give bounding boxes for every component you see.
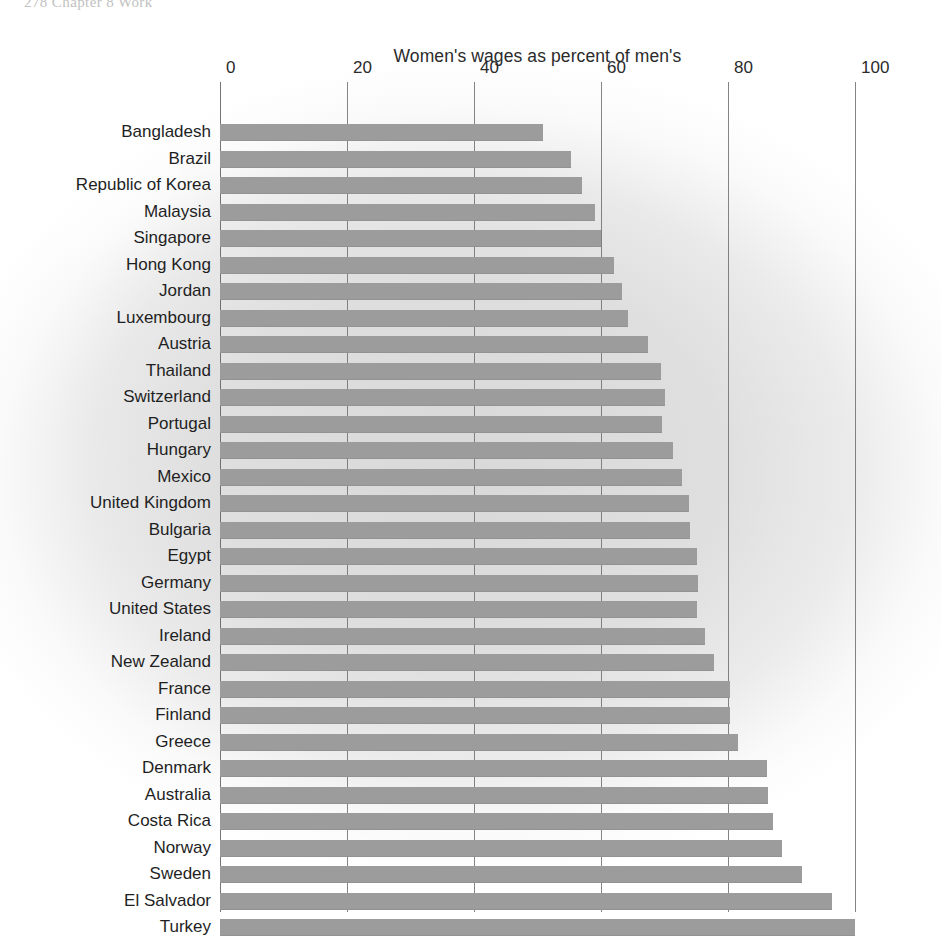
bar [220,522,690,539]
bar-row: Denmark [220,760,855,777]
bar-row: Costa Rica [220,813,855,830]
bar [220,628,705,645]
bar-row: New Zealand [220,654,855,671]
category-label: Hungary [147,439,211,461]
bar [220,760,767,777]
plot-area: 020406080100 BangladeshBrazilRepublic of… [220,118,855,912]
category-label: Thailand [146,360,211,382]
bar-row: Portugal [220,416,855,433]
bar [220,177,582,194]
category-label: Brazil [168,148,211,170]
category-label: Republic of Korea [76,174,211,196]
bar-row: France [220,681,855,698]
bar-row: Greece [220,734,855,751]
category-label: Finland [155,704,211,726]
category-label: Jordan [159,280,211,302]
category-label: Greece [155,731,211,753]
bar-row: Jordan [220,283,855,300]
bar-row: United States [220,601,855,618]
category-label: Bulgaria [149,519,211,541]
bar [220,840,782,857]
bar [220,469,682,486]
bar-row: Austria [220,336,855,353]
bar [220,442,673,459]
category-label: Portugal [148,413,211,435]
bar [220,151,571,168]
bar [220,707,730,724]
bar-row: Sweden [220,866,855,883]
category-label: Mexico [157,466,211,488]
bar-row: Germany [220,575,855,592]
category-label: Singapore [133,227,211,249]
category-label: Malaysia [144,201,211,223]
bar [220,283,622,300]
category-label: Turkey [160,916,211,938]
category-label: United Kingdom [90,492,211,514]
bar-row: Malaysia [220,204,855,221]
bar [220,416,662,433]
category-label: Ireland [159,625,211,647]
bar-row: Hong Kong [220,257,855,274]
bar [220,495,689,512]
bar-row: Hungary [220,442,855,459]
category-label: France [158,678,211,700]
bar [220,787,768,804]
category-label: New Zealand [111,651,211,673]
bar-row: Switzerland [220,389,855,406]
bar [220,893,832,910]
bar [220,654,714,671]
x-tick-label-60: 60 [607,58,626,78]
bar [220,310,628,327]
bar [220,681,730,698]
bar [220,336,648,353]
bar-row: Brazil [220,151,855,168]
category-label: Austria [158,333,211,355]
bar [220,601,697,618]
x-tick-label-80: 80 [734,58,753,78]
bar-row: Bangladesh [220,124,855,141]
bar-row: Thailand [220,363,855,380]
bar-row: Bulgaria [220,522,855,539]
category-label: Costa Rica [128,810,211,832]
category-label: Egypt [168,545,211,567]
category-label: Denmark [142,757,211,779]
category-label: Sweden [150,863,211,885]
bar-row: El Salvador [220,893,855,910]
x-tick-label-20: 20 [353,58,372,78]
bar-row: Turkey [220,919,855,936]
bar-row: United Kingdom [220,495,855,512]
gridline-100 [855,82,856,912]
bar [220,734,738,751]
bar [220,363,661,380]
bar [220,919,855,936]
x-tick-label-0: 0 [226,58,235,78]
category-label: Switzerland [123,386,211,408]
category-label: Bangladesh [121,121,211,143]
bar [220,389,665,406]
bar [220,548,697,565]
bar [220,575,698,592]
bar-row: Luxembourg [220,310,855,327]
chart-page: 278 Chapter 8 Work Women's wages as perc… [0,0,941,945]
category-label: Luxembourg [116,307,211,329]
category-label: Hong Kong [126,254,211,276]
bar [220,257,614,274]
chart-title: Women's wages as percent of men's [220,46,855,67]
category-label: Australia [145,784,211,806]
bar [220,813,773,830]
x-tick-label-40: 40 [480,58,499,78]
bar [220,230,601,247]
bar-row: Ireland [220,628,855,645]
category-label: Germany [141,572,211,594]
bar-row: Singapore [220,230,855,247]
bar [220,866,802,883]
bar-row: Mexico [220,469,855,486]
bar [220,204,595,221]
bar-row: Norway [220,840,855,857]
bar-row: Finland [220,707,855,724]
bar [220,124,543,141]
bar-row: Republic of Korea [220,177,855,194]
bar-row: Australia [220,787,855,804]
x-tick-label-100: 100 [861,58,889,78]
category-label: Norway [153,837,211,859]
